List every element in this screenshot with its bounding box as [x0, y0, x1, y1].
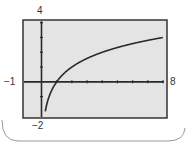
viewing-window-frame — [23, 20, 167, 118]
ymax-label: 4 — [37, 6, 43, 16]
graph-screen — [0, 0, 187, 144]
xmax-label: 8 — [170, 77, 176, 87]
ymin-label: −2 — [32, 121, 43, 131]
card-outline — [2, 120, 185, 141]
calculator-graph-figure: 4 −2 −1 8 — [0, 0, 187, 144]
xmin-label: −1 — [4, 77, 15, 87]
